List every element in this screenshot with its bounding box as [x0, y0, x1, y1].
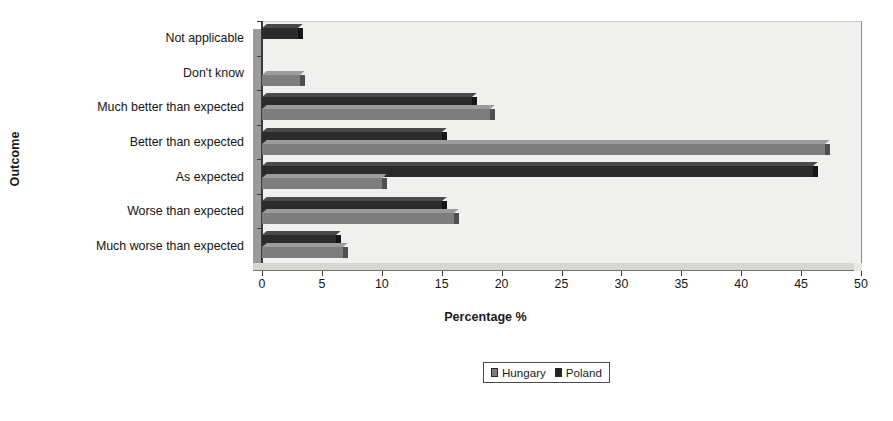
x-axis-tick-label: 0 — [242, 277, 282, 291]
bar-end-cap — [490, 109, 495, 120]
y-axis-tick-mark — [257, 228, 261, 229]
bar-face — [262, 75, 300, 86]
x-axis-tick-mark — [262, 271, 263, 276]
legend-swatch-icon — [491, 368, 498, 377]
bar-end-cap — [298, 28, 303, 39]
x-axis-tick-label: 35 — [661, 277, 701, 291]
x-axis-tick-label: 50 — [841, 277, 881, 291]
legend-swatch-icon — [555, 368, 562, 377]
x-axis-tick-mark — [382, 271, 383, 276]
x-axis-tick-label: 10 — [362, 277, 402, 291]
x-axis-title: Percentage % — [0, 310, 893, 324]
legend-item-hungary: Hungary — [491, 366, 546, 379]
x-axis-tick-mark — [681, 271, 682, 276]
legend-label: Hungary — [502, 366, 546, 379]
bar-face — [262, 144, 825, 155]
x-axis-tick-label: 45 — [781, 277, 821, 291]
plot-area — [261, 21, 862, 263]
y-axis-tick-mark — [257, 90, 261, 91]
bar-hungary-bar — [262, 213, 454, 224]
x-axis-tick-label: 15 — [422, 277, 462, 291]
x-axis-tick-label: 40 — [721, 277, 761, 291]
x-axis-tick-mark — [502, 271, 503, 276]
bar-group — [261, 56, 862, 91]
y-axis-tick-mark — [257, 194, 261, 195]
legend-item-poland: Poland — [555, 366, 602, 379]
plot-frame — [253, 21, 862, 271]
bar-end-cap — [343, 247, 348, 258]
x-axis-tick-mark — [562, 271, 563, 276]
plot-floor — [253, 263, 854, 271]
bar-hungary-bar — [262, 178, 382, 189]
y-axis-tick-label: Don't know — [30, 66, 244, 80]
bar-end-cap — [382, 178, 387, 189]
bar-poland-bar — [262, 28, 298, 39]
chart-legend: HungaryPoland — [483, 362, 610, 383]
y-axis-tick-mark — [257, 159, 261, 160]
plot-floor-corner — [854, 263, 862, 271]
x-axis-tick-mark — [801, 271, 802, 276]
y-axis-tick-label: Better than expected — [30, 135, 244, 149]
bar-face — [262, 178, 382, 189]
x-axis-tick-mark — [322, 271, 323, 276]
bar-face — [262, 247, 343, 258]
bar-group — [261, 194, 862, 229]
bar-hungary-bar — [262, 75, 300, 86]
plot-left-wall — [253, 29, 261, 271]
bar-end-cap — [825, 144, 830, 155]
x-axis-tick-mark — [621, 271, 622, 276]
y-axis-tick-label: Much worse than expected — [30, 239, 244, 253]
y-axis-category-labels: Not applicableDon't knowMuch better than… — [30, 21, 248, 271]
bar-face — [262, 213, 454, 224]
bar-group — [261, 159, 862, 194]
x-axis-tick-label: 30 — [601, 277, 641, 291]
x-axis-tick-mark — [442, 271, 443, 276]
y-axis-title: Outcome — [8, 104, 22, 214]
legend-label: Poland — [566, 366, 602, 379]
bar-hungary-bar — [262, 247, 343, 258]
bar-group — [261, 90, 862, 125]
bar-hungary-bar — [262, 144, 825, 155]
y-axis-tick-mark — [257, 21, 261, 22]
bar-group — [261, 228, 862, 263]
y-axis-tick-label: Worse than expected — [30, 204, 244, 218]
bar-end-cap — [454, 213, 459, 224]
bar-hungary-bar — [262, 109, 490, 120]
bar-group — [261, 125, 862, 160]
bar-face — [262, 109, 490, 120]
y-axis-tick-label: Not applicable — [30, 31, 244, 45]
x-axis-tick-mark — [861, 271, 862, 276]
bar-end-cap — [300, 75, 305, 86]
bar-end-cap — [813, 166, 818, 177]
x-axis-tick-label: 5 — [302, 277, 342, 291]
x-axis-tick-label: 25 — [542, 277, 582, 291]
x-axis-tick-mark — [741, 271, 742, 276]
x-axis-ticks: 05101520253035404550 — [253, 271, 873, 301]
bar-chart: Outcome Not applicableDon't knowMuch bet… — [0, 0, 893, 421]
bar-group — [261, 21, 862, 56]
y-axis-tick-mark — [257, 56, 261, 57]
y-axis-tick-mark — [257, 125, 261, 126]
bar-face — [262, 28, 298, 39]
x-axis-tick-label: 20 — [482, 277, 522, 291]
y-axis-tick-label: As expected — [30, 170, 244, 184]
y-axis-tick-label: Much better than expected — [30, 100, 244, 114]
